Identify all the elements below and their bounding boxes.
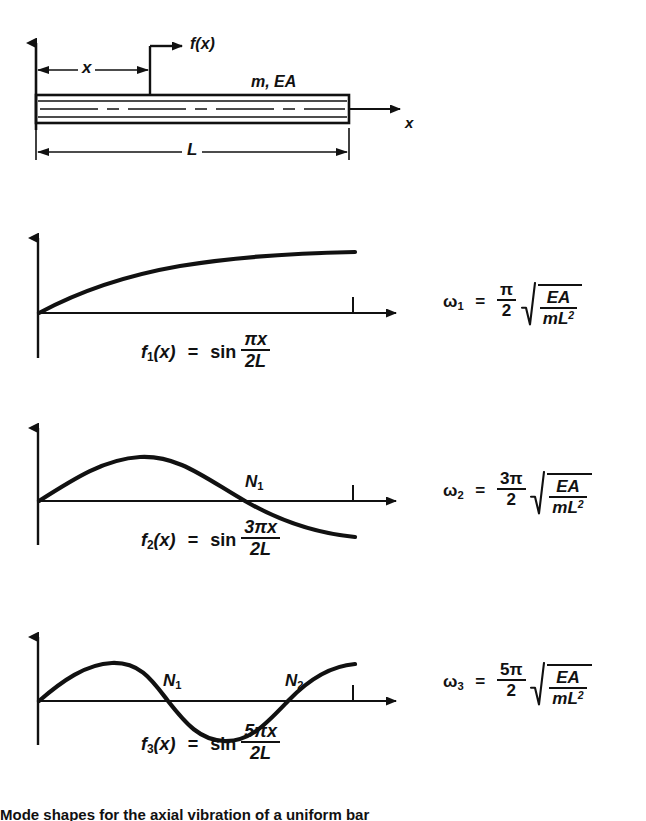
bar-x-axis-label: x <box>405 115 413 130</box>
radical-sign-icon <box>521 282 537 325</box>
force-label: f(x) <box>190 36 215 52</box>
figure-caption: Mode shapes for the axial vibration of a… <box>0 806 646 821</box>
mode-3-equation: f3(x) = sin 5πx 2L <box>141 722 280 762</box>
mode-2-radical: EA mL2 <box>530 473 591 516</box>
mode-1-radicand-fraction: EA mL2 <box>540 289 577 327</box>
mode-2-sin-fraction: 3πx 2L <box>241 518 280 558</box>
radical-sign-icon <box>530 662 546 705</box>
mode-1-sin-fraction: πx 2L <box>241 330 270 370</box>
mode-3-frequency: ω3 = 5π 2 EA mL2 <box>443 661 592 708</box>
x-distance-label: x <box>78 59 95 76</box>
mode-3-node-label-N2: N2 <box>285 672 304 691</box>
mode-1-radical: EA mL2 <box>521 284 582 327</box>
mode-3-sin-fraction: 5πx 2L <box>241 722 280 762</box>
mode-1-frequency: ω1 = π 2 EA mL2 <box>443 281 582 328</box>
mode-2-frequency: ω2 = 3π 2 EA mL2 <box>443 470 592 517</box>
mode-3-node-label-N1: N1 <box>163 672 182 691</box>
mode-3-radicand-fraction: EA mL2 <box>549 669 586 707</box>
mode-1-equation: f1(x) = sin πx 2L <box>141 330 270 370</box>
mode-2-node-label-N1: N1 <box>245 473 264 492</box>
mode-3-coefficient-fraction: 5π 2 <box>497 661 525 699</box>
mode-2-equation: f2(x) = sin 3πx 2L <box>141 518 280 558</box>
mode-1-coefficient-fraction: π 2 <box>497 281 516 319</box>
mode-2-coefficient-fraction: 3π 2 <box>497 470 525 508</box>
bar-property-label: m, EA <box>251 74 296 90</box>
mode-3-radical: EA mL2 <box>530 664 591 707</box>
mode-2-radicand-fraction: EA mL2 <box>549 478 586 516</box>
bar-length-label: L <box>182 141 202 158</box>
radical-sign-icon <box>530 471 546 514</box>
mode-1-curve <box>39 252 355 313</box>
figure-page: f(x) x m, EA L x f1(x) = sin πx 2L ω1 = … <box>0 0 646 821</box>
